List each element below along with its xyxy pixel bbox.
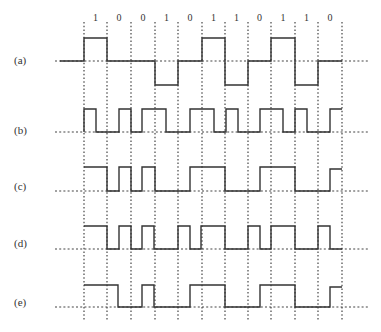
waveform-b: [84, 109, 342, 132]
signal-waveforms: [60, 38, 342, 307]
waveform-label: (a): [14, 54, 27, 67]
waveform-d: [84, 226, 342, 249]
zero-level-baselines: [55, 61, 368, 307]
waveform-label: (d): [14, 237, 27, 250]
bit-label: 1: [164, 12, 169, 23]
bit-label: 1: [304, 12, 309, 23]
bit-label: 1: [93, 12, 98, 23]
bit-label: 1: [211, 12, 216, 23]
bit-label: 0: [328, 12, 333, 23]
bit-label: 1: [281, 12, 286, 23]
waveform-label: (c): [14, 180, 27, 193]
bit-sequence-labels: 10010110110: [93, 12, 333, 23]
waveform-labels: (a)(b)(c)(d)(e): [14, 54, 27, 309]
bit-label: 0: [141, 12, 146, 23]
waveform-label: (b): [14, 124, 27, 137]
bit-label: 1: [234, 12, 239, 23]
bit-label: 0: [188, 12, 193, 23]
bit-label: 0: [117, 12, 122, 23]
line-coding-diagram: 10010110110 (a)(b)(c)(d)(e): [0, 0, 381, 332]
bit-boundary-gridlines: [84, 22, 342, 320]
waveform-label: (e): [14, 296, 27, 309]
bit-label: 0: [257, 12, 262, 23]
waveform-c: [84, 167, 342, 191]
waveform-e: [84, 285, 342, 307]
